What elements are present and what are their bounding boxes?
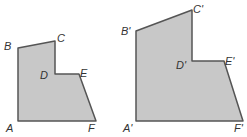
label-A-prime: A' (122, 122, 133, 134)
label-C: C (57, 32, 65, 44)
label-E: E (80, 67, 88, 79)
label-E-prime: E' (225, 55, 235, 67)
label-F-prime: F' (234, 122, 244, 134)
label-D-prime: D' (176, 59, 187, 71)
label-B-prime: B' (121, 25, 131, 37)
label-C-prime: C' (193, 3, 204, 15)
label-A: A (5, 122, 13, 134)
label-F: F (88, 122, 96, 134)
label-B: B (4, 40, 11, 52)
original-hexagon (18, 41, 96, 121)
similar-figures-diagram: B C D E A F B' C' D' E' A' F' (0, 0, 247, 137)
label-D: D (40, 69, 48, 81)
